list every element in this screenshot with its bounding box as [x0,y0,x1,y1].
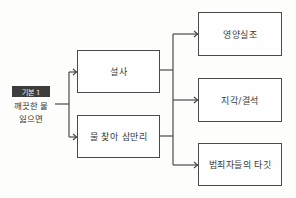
outcome-node-crime-target: 범죄자들의 타깃 [198,143,282,186]
source-badge: 기본 1 [12,86,50,97]
node-label: 범죄자들의 타깃 [209,158,272,171]
source-label-line1: 깨끗한 물 [8,99,54,111]
node-label: 영양실조 [223,28,257,41]
outcome-node-tardiness: 지각/결석 [198,78,282,122]
source-label-line2: 잃으면 [8,112,54,124]
outcome-node-malnutrition: 영양실조 [198,12,282,56]
node-label: 지각/결석 [221,94,259,107]
middle-node-diarrhea: 설사 [77,50,160,93]
node-label: 물 찾아 삼만리 [90,130,148,143]
flow-diagram: 기본 1 깨끗한 물 잃으면 설사 물 찾아 삼만리 영양실조 지각/결석 범죄… [0,0,296,198]
node-label: 설사 [110,65,127,78]
middle-node-water-search: 물 찾아 삼만리 [77,115,160,158]
